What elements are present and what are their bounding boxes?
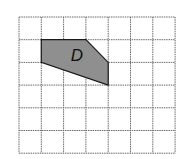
shapes-layer: D	[41, 40, 108, 85]
square-grid	[19, 17, 175, 153]
grid-diagram: D	[0, 0, 184, 159]
shape-label: D	[71, 46, 83, 65]
